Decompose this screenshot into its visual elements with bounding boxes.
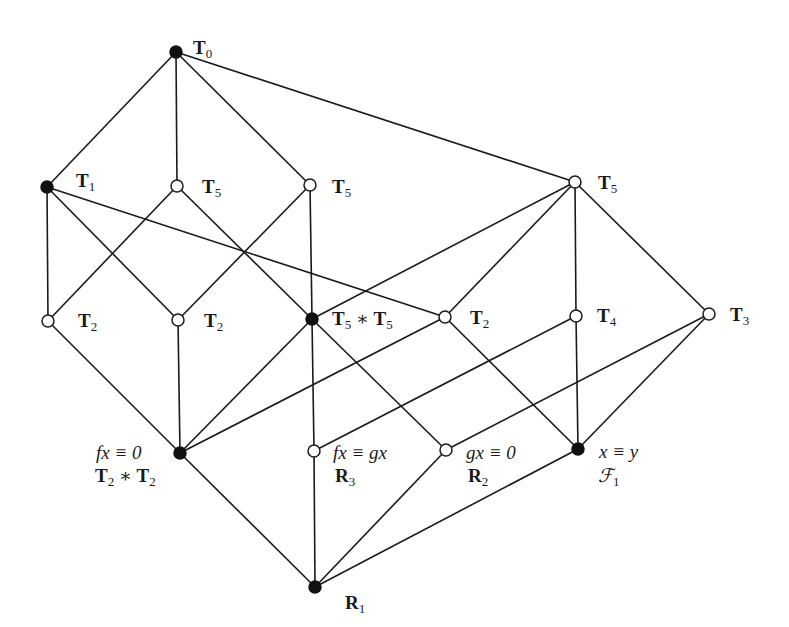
node-T5b-open-circle-icon [304,179,316,191]
label-x-equiv-y: x ≡ y [599,442,638,461]
edge-T5c-T55 [312,182,575,319]
node-R1-filled-dot-icon [309,581,321,593]
label-T0: T0 [193,38,212,60]
label-fx-equiv-0: fx ≡ 0 [96,443,142,462]
label-fx-equiv-gx: fx ≡ gx [333,443,387,462]
label-R3: R3 [335,466,355,488]
edge-T0-T5c [176,52,575,182]
label-T5-left: T5 [202,177,221,199]
node-fx0-filled-dot-icon [174,447,186,459]
label-T2-left: T2 [78,311,97,333]
edge-T3-xy [578,314,709,449]
label-T2-middle: T2 [204,311,223,333]
label-T2-star-T2: T2 ∗ T2 [95,466,156,488]
edge-T1-T2c [47,187,445,317]
edge-T5c-T4 [575,182,576,316]
node-T5c-open-circle-icon [569,176,581,188]
label-F1: ℱ1 [598,466,620,488]
label-T5-star-T5: T5 ∗ T5 [332,309,393,331]
node-T0-filled-dot-icon [170,46,182,58]
edge-T5c-T2c [445,182,575,317]
node-T4-open-circle-icon [570,310,582,322]
label-T5-right: T5 [598,173,617,195]
edge-T5c-T3 [575,182,709,314]
edge-T5b-T2b [178,185,310,320]
lattice-diagram [0,0,789,627]
node-T2a-open-circle-icon [42,315,54,327]
node-T3-open-circle-icon [703,308,715,320]
edge-fx0-R1 [180,453,315,587]
label-T3: T3 [730,305,749,327]
node-gx0-open-circle-icon [440,444,452,456]
edge-T0-T5a [176,52,177,186]
edge-T55-fxgx [312,319,314,451]
node-xy-filled-dot-icon [572,443,584,455]
label-T1: T1 [76,171,95,193]
label-R1: R1 [345,593,365,615]
label-T2-right: T2 [470,308,489,330]
edge-T55-fx0 [180,319,312,453]
label-T5-middle: T5 [332,177,351,199]
node-T5a-open-circle-icon [171,180,183,192]
node-T1-filled-dot-icon [41,181,53,193]
edge-T2b-fx0 [178,320,180,453]
edge-T2a-fx0 [48,321,180,453]
edge-T1-T2a [47,187,48,321]
label-T4: T4 [597,306,616,328]
edge-T0-T1 [47,52,176,187]
edge-T0-T5b [176,52,310,185]
node-T55-filled-dot-icon [306,313,318,325]
edge-T2c-xy [445,317,578,449]
edge-fxgx-R1 [314,451,315,587]
edge-T5a-T2a [48,186,177,321]
node-T2c-open-circle-icon [439,311,451,323]
label-R2: R2 [468,466,488,488]
edge-T55-gx0 [312,319,446,450]
edge-T5b-T55 [310,185,312,319]
edge-T4-fxgx [314,316,576,451]
node-T2b-open-circle-icon [172,314,184,326]
label-gx-equiv-0: gx ≡ 0 [466,443,516,462]
node-fxgx-open-circle-icon [308,445,320,457]
